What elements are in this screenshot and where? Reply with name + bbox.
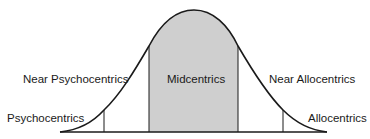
label-near-psychocentrics: Near Psychocentrics: [23, 74, 128, 86]
midcentrics-shaded-region: [149, 10, 238, 132]
label-midcentrics: Midcentrics: [167, 74, 225, 86]
label-psychocentrics: Psychocentrics: [7, 113, 84, 125]
label-allocentrics: Allocentrics: [308, 113, 367, 125]
distribution-diagram: Near Psychocentrics Midcentrics Near All…: [0, 0, 370, 139]
label-near-allocentrics: Near Allocentrics: [269, 74, 355, 86]
